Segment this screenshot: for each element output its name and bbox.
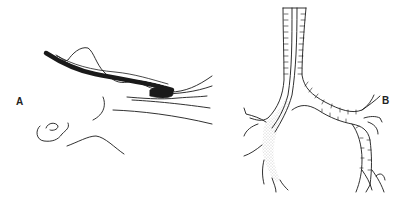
panel-b-drawing bbox=[0, 0, 403, 204]
panel-label-b: B bbox=[382, 95, 389, 106]
medical-figure: A B bbox=[0, 0, 403, 204]
panel-label-a: A bbox=[16, 96, 23, 107]
